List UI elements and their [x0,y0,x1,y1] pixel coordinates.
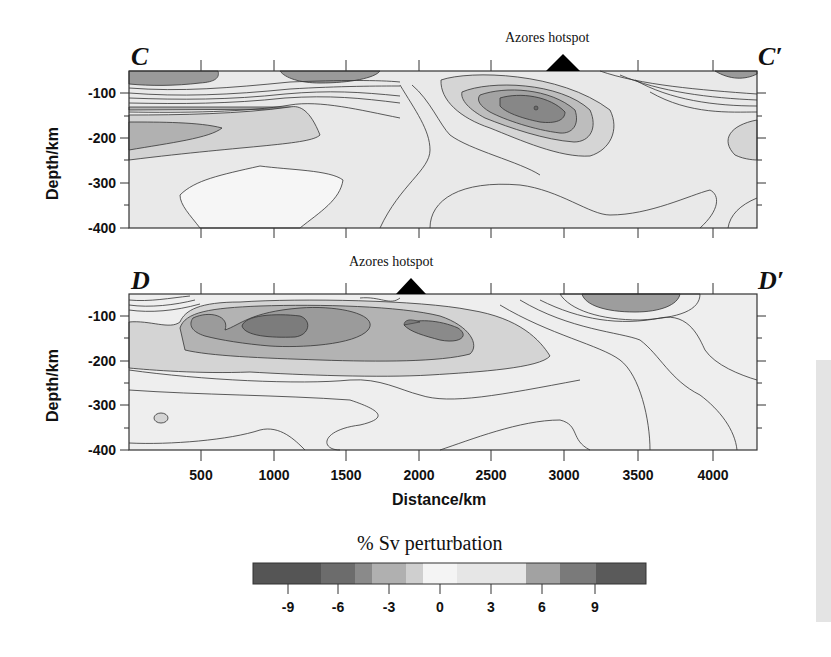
colorbar-tick: 3 [476,599,506,615]
panel-d-hotspot-label: Azores hotspot [349,254,433,270]
panel-d-ytick: -300 [76,397,116,413]
colorbar-tick: 9 [580,599,610,615]
panel-d-xtick: 500 [176,467,226,483]
panel-c-start-label: C [131,44,148,70]
panel-c-ytick: -400 [76,220,116,236]
panel-d-ytick: -200 [76,353,116,369]
panel-d-ytick: -400 [76,442,116,458]
panel-c-ytick: -100 [76,85,116,101]
panel-c-ytick: -200 [76,130,116,146]
panel-d-xlabel: Distance/km [392,491,486,509]
panel-c-ytick: -300 [76,175,116,191]
panel-d-ytick: -100 [76,308,116,324]
panel-d-plot [129,294,757,450]
panel-d-xtick: 4000 [688,467,738,483]
colorbar-tick: 6 [527,599,557,615]
panel-d-xtick: 3500 [613,467,663,483]
hotspot-marker-c [546,54,580,71]
colorbar-tick: -3 [374,599,404,615]
panel-c-plot [129,71,757,228]
panel-d-xtick: 3000 [539,467,589,483]
panel-d-start-label: D [131,268,150,294]
panel-c-ylabel: Depth/km [44,127,62,200]
colorbar [253,563,646,594]
panel-d-xtick: 1000 [249,467,299,483]
panel-d-end-label: D′ [758,268,784,294]
hotspot-marker-d [396,278,426,294]
panel-d-xtick: 2000 [394,467,444,483]
colorbar-tick: -6 [323,599,353,615]
panel-d-xtick: 2500 [466,467,516,483]
panel-c-hotspot-label: Azores hotspot [505,30,589,46]
panel-d-xtick: 1500 [321,467,371,483]
colorbar-title: % Sv perturbation [357,532,503,555]
panel-d-ylabel: Depth/km [44,349,62,422]
panel-c-end-label: C′ [758,44,783,70]
chart-canvas [0,0,831,657]
page-edge-bar [816,360,831,622]
colorbar-tick: -9 [273,599,303,615]
colorbar-tick: 0 [425,599,455,615]
